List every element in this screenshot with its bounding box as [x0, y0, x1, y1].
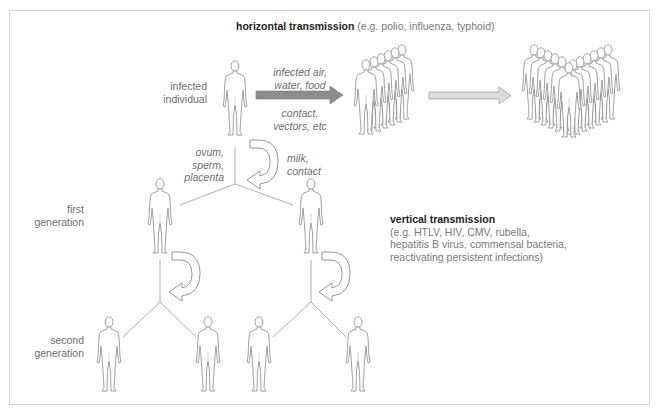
second-gen-2-icon [196, 317, 220, 391]
label-line: milk, [287, 152, 321, 165]
vertical-transmission-heading: vertical transmission (e.g. HTLV, HIV, C… [390, 213, 567, 263]
second-gen-3-icon [247, 317, 271, 391]
label-line: second [20, 334, 84, 347]
infected-person-icon [223, 61, 247, 135]
label-line: contact [287, 165, 321, 178]
crowd-large-icon [522, 45, 620, 137]
horizontal-examples: (e.g. polio, influenza, typhoid) [357, 20, 494, 32]
label-line: vectors, etc [262, 120, 338, 133]
route-germline-label: ovum, sperm, placenta [160, 146, 224, 184]
infected-individual-label: infected individual [140, 80, 207, 105]
second-gen-4-icon [346, 317, 370, 391]
label-line: contact, [262, 107, 338, 120]
label-line: individual [140, 93, 207, 106]
label-line: ovum, [160, 146, 224, 159]
label-line: generation [20, 216, 84, 229]
vertical-examples-line: (e.g. HTLV, HIV, CMV, rubella, [390, 226, 567, 239]
label-line: first [20, 203, 84, 216]
label-line: water, food [262, 79, 338, 92]
diagram-graphics [0, 0, 657, 412]
route-milk-label: milk, contact [287, 152, 321, 177]
vertical-title: vertical transmission [390, 213, 495, 225]
second-generation-label: second generation [20, 334, 84, 359]
label-line: infected [140, 80, 207, 93]
first-generation-label: first generation [20, 203, 84, 228]
first-gen-left-icon [148, 179, 172, 253]
vertical-examples-line: reactivating persistent infections) [390, 251, 567, 264]
horizontal-transmission-heading: horizontal transmission (e.g. polio, inf… [236, 20, 495, 33]
vertical-examples-line: hepatitis B virus, commensal bacteria, [390, 238, 567, 251]
label-line: placenta [160, 171, 224, 184]
label-line: infected air, [262, 66, 338, 79]
label-line: generation [20, 347, 84, 360]
second-gen-1-icon [97, 317, 121, 391]
route-airborne-label: infected air, water, food [262, 66, 338, 91]
first-gen-right-icon [299, 179, 323, 253]
label-line: sperm, [160, 159, 224, 172]
crowd-small-icon [354, 45, 414, 134]
route-contact-label: contact, vectors, etc [262, 107, 338, 132]
horizontal-title: horizontal transmission [236, 20, 354, 32]
